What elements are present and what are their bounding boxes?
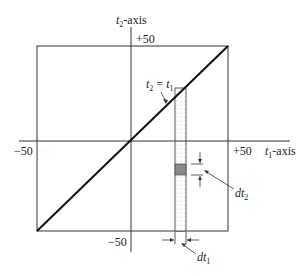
diagonal-label: t2 = t1 <box>146 78 173 93</box>
tick-y-neg: −50 <box>108 236 127 248</box>
tick-y-pos: +50 <box>136 33 155 45</box>
dt2-label: dt2 <box>235 187 248 202</box>
dt1-label: dt1 <box>197 251 210 266</box>
t1-axis-label: t1-axis <box>265 145 296 160</box>
dt2-pointer <box>205 171 234 189</box>
arrow-head-icon <box>163 99 168 104</box>
tick-x-neg: −50 <box>14 145 33 157</box>
t2-axis-label: t2-axis <box>116 14 147 29</box>
dt1-strip <box>175 88 186 231</box>
tick-x-pos: +50 <box>233 145 252 157</box>
shaded-element <box>175 164 186 175</box>
diagonal-line <box>37 46 228 231</box>
